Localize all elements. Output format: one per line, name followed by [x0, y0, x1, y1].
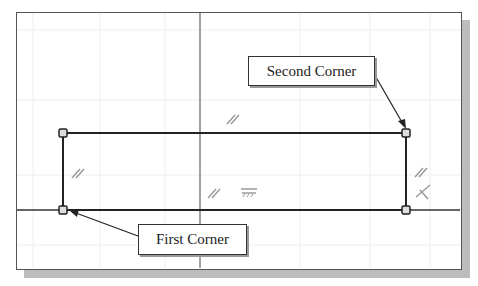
second-corner-callout: Second Corner: [248, 56, 375, 86]
second-corner-label: Second Corner: [267, 63, 357, 80]
corner-handle-bottom-left[interactable]: [59, 206, 67, 214]
sketched-rectangle[interactable]: [63, 133, 406, 210]
second-corner-arrowhead: [398, 119, 406, 129]
second-corner-leader: [373, 72, 403, 124]
parallel-icon[interactable]: [208, 189, 220, 198]
parallel-icon[interactable]: [72, 169, 84, 178]
corner-handle-top-left[interactable]: [59, 129, 67, 137]
first-corner-leader: [76, 213, 138, 236]
parallel-icon[interactable]: [415, 168, 427, 177]
corner-handle-bottom-right[interactable]: [402, 206, 410, 214]
first-corner-label: First Corner: [156, 231, 229, 248]
corner-handle-top-right[interactable]: [402, 129, 410, 137]
horizontal-dimension-icon[interactable]: [241, 189, 257, 197]
parallel-icon[interactable]: [227, 115, 239, 124]
first-corner-callout: First Corner: [138, 224, 247, 255]
perpendicular-icon[interactable]: [416, 185, 430, 199]
